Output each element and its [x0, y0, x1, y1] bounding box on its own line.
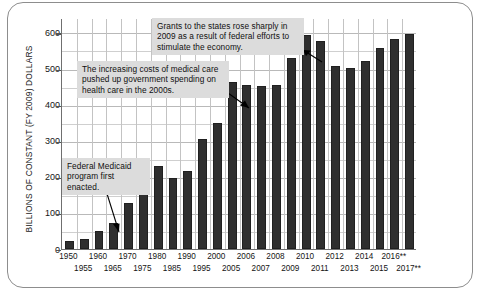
bar-2015: [376, 48, 385, 249]
bar-2010: [302, 35, 311, 249]
bar-1965: [109, 223, 118, 249]
x-tick-label-2016: 2016**: [382, 252, 407, 261]
bar-1980: [154, 166, 163, 249]
x-tick-label-1990: 1990: [178, 252, 196, 261]
x-tick-label-2006: 2006: [237, 252, 255, 261]
x-tick-label-1980: 1980: [148, 252, 166, 261]
x-tick-label-1985: 1985: [163, 264, 181, 273]
bar-2009: [287, 58, 296, 249]
bar-2014: [361, 61, 370, 249]
x-tick-label-1965: 1965: [104, 264, 122, 273]
x-tick-label-1970: 1970: [118, 252, 136, 261]
x-tick-label-2013: 2013: [340, 264, 358, 273]
y-tick-label-0: 0: [26, 246, 60, 255]
y-tick-label-400: 400: [26, 101, 60, 110]
annotation-medicaid: Federal Medicaid program first enacted.: [62, 158, 150, 195]
x-tick-label-1975: 1975: [133, 264, 151, 273]
bar-1970: [124, 203, 133, 249]
x-axis-ticks: 1950195519601965197019751980198519901995…: [61, 251, 416, 283]
x-tick-label-2014: 2014: [355, 252, 373, 261]
bar-2017: [405, 34, 414, 249]
y-tick-label-600: 600: [26, 29, 60, 38]
bar-2011: [316, 41, 325, 249]
x-tick-label-2017: 2017**: [396, 264, 421, 273]
bar-1985: [169, 178, 178, 249]
y-tick-label-300: 300: [26, 137, 60, 146]
x-tick-label-2005: 2005: [222, 264, 240, 273]
x-tick-label-2009: 2009: [281, 264, 299, 273]
x-tick-label-2012: 2012: [326, 252, 344, 261]
bar-2000: [213, 123, 222, 249]
x-tick-label-1995: 1995: [192, 264, 210, 273]
x-tick-label-2011: 2011: [311, 264, 329, 273]
bar-2016: [390, 39, 399, 249]
annotation-medical: The increasing costs of medical care pus…: [77, 61, 229, 98]
bar-1950: [65, 241, 74, 249]
x-tick-label-2015: 2015: [370, 264, 388, 273]
x-tick-label-1960: 1960: [89, 252, 107, 261]
x-tick-label-1950: 1950: [59, 252, 77, 261]
bar-1960: [95, 231, 104, 249]
bar-1990: [183, 171, 192, 249]
x-tick-label-2008: 2008: [266, 252, 284, 261]
bar-2013: [346, 68, 355, 249]
bar-1995: [198, 139, 207, 249]
x-tick-label-2000: 2000: [207, 252, 225, 261]
chart-figure: BILLIONS OF CONSTANT (FY 2009) DOLLARS 0…: [0, 0, 481, 296]
bar-1955: [80, 239, 89, 249]
y-tick-label-500: 500: [26, 65, 60, 74]
bar-2012: [331, 66, 340, 249]
x-tick-label-2010: 2010: [296, 252, 314, 261]
bar-2007: [257, 86, 266, 250]
y-tick-label-200: 200: [26, 173, 60, 182]
bar-2006: [242, 85, 251, 249]
x-tick-label-1955: 1955: [74, 264, 92, 273]
x-tick-label-2007: 2007: [252, 264, 270, 273]
bar-2005: [228, 82, 237, 249]
annotation-grants: Grants to the states rose sharply in 200…: [152, 18, 304, 55]
bar-2008: [272, 85, 281, 249]
y-tick-label-100: 100: [26, 209, 60, 218]
